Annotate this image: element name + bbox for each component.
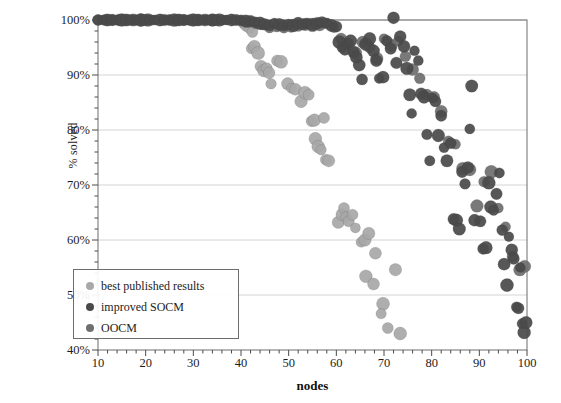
legend-item-oocm: OOCM [86, 318, 238, 338]
x-axis-tick-label: 30 [173, 356, 213, 371]
data-point [387, 12, 399, 24]
data-point [350, 223, 360, 233]
data-point [400, 62, 413, 75]
data-point [460, 178, 471, 189]
legend-item-best-published: best published results [86, 276, 238, 296]
data-point [377, 71, 389, 83]
x-axis-tick-label: 60 [316, 356, 356, 371]
data-point [465, 124, 475, 134]
legend-marker-icon [86, 303, 94, 311]
data-point [414, 73, 425, 84]
data-point [377, 297, 390, 310]
x-axis-tick-label: 40 [221, 356, 261, 371]
x-axis-tick-label: 80 [412, 356, 452, 371]
data-point [508, 253, 520, 265]
data-point [323, 155, 335, 167]
y-axis-tick-label: 70% [42, 178, 90, 193]
data-point [353, 59, 365, 71]
x-axis-tick-label: 50 [269, 356, 309, 371]
x-axis-tick-label: 100 [507, 356, 547, 371]
data-point [407, 108, 417, 118]
data-point [482, 176, 495, 189]
data-point [274, 55, 287, 68]
data-point [445, 138, 456, 149]
legend-item-label: best published results [101, 279, 204, 294]
data-point [363, 32, 376, 45]
data-point [480, 241, 493, 254]
data-point [370, 55, 382, 67]
data-point [369, 247, 381, 259]
data-point [376, 309, 386, 319]
data-point [252, 46, 265, 59]
data-point [435, 110, 447, 122]
data-point [303, 89, 314, 100]
data-point [432, 129, 445, 142]
data-point [462, 161, 474, 173]
y-axis-tick-label: 100% [42, 13, 90, 28]
x-axis-title: nodes [98, 378, 527, 394]
data-point [513, 302, 524, 313]
scatter-chart-figure: % solved nodes 40%50%60%70%80%90%100% 10… [0, 0, 561, 403]
legend-marker-icon [86, 324, 94, 332]
data-point [331, 21, 342, 32]
data-point [368, 278, 380, 290]
data-point [441, 155, 454, 168]
data-point [318, 112, 329, 123]
data-point [356, 74, 367, 85]
data-point [382, 322, 393, 333]
data-point [363, 227, 375, 239]
data-point [316, 145, 326, 155]
data-point [403, 88, 416, 101]
data-point [385, 43, 397, 55]
data-point [474, 216, 486, 228]
legend-item-label: OOCM [101, 321, 137, 336]
y-axis-tick-label: 90% [42, 68, 90, 83]
x-axis-tick-label: 90 [459, 356, 499, 371]
data-point [263, 67, 275, 79]
data-point [430, 96, 441, 107]
legend-item-improved-socm: improved SOCM [86, 297, 238, 317]
legend-marker-icon [86, 282, 94, 290]
x-axis-tick-label: 20 [126, 356, 166, 371]
x-axis-tick-label: 10 [78, 356, 118, 371]
data-point [422, 129, 433, 140]
legend-item-label: improved SOCM [101, 300, 184, 315]
data-point [347, 209, 358, 220]
data-point [394, 327, 407, 340]
series-best-published-results [238, 18, 407, 340]
data-point [520, 316, 533, 329]
data-point [344, 35, 357, 48]
y-axis-tick-label: 80% [42, 123, 90, 138]
data-point [504, 232, 514, 242]
data-point [424, 156, 435, 167]
data-point [500, 279, 513, 292]
data-point [398, 40, 410, 52]
data-point [471, 200, 484, 213]
data-point [494, 168, 504, 178]
data-point [515, 262, 525, 272]
data-point [266, 78, 277, 89]
data-point [409, 46, 419, 56]
y-axis-tick-label: 60% [42, 233, 90, 248]
x-axis-tick-label: 70 [364, 356, 404, 371]
data-point [389, 263, 401, 275]
data-point [413, 56, 423, 66]
chart-legend: best published results improved SOCM OOC… [73, 269, 239, 339]
series-oocm [93, 13, 531, 276]
data-point [453, 223, 466, 236]
data-point [491, 188, 503, 200]
data-point [465, 80, 478, 93]
data-point [488, 205, 499, 216]
